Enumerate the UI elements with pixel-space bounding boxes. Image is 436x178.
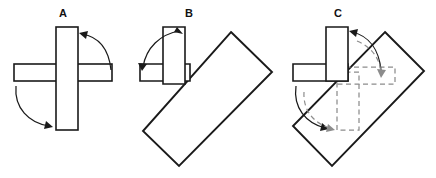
- diagram-canvas: A B C: [0, 0, 436, 178]
- panel-b: B: [138, 7, 272, 166]
- panel-a-label: A: [59, 7, 67, 19]
- panel-a: A: [14, 7, 112, 130]
- figure-root: A B C: [0, 0, 436, 178]
- panel-b-label: B: [185, 7, 193, 19]
- panel-a-arrowhead-upper: [79, 31, 88, 39]
- panel-a-vertical-bar: [56, 27, 78, 130]
- panel-c-label: C: [334, 7, 342, 19]
- panel-a-arrowhead-lower: [44, 121, 53, 129]
- panel-a-rotation-arc-lower: [16, 86, 49, 126]
- panel-c-arrowhead-upper: [349, 29, 358, 37]
- panel-c-rotated-rect: [293, 32, 424, 166]
- panel-c: C: [293, 7, 424, 166]
- panel-c-vertical-bar: [326, 27, 348, 81]
